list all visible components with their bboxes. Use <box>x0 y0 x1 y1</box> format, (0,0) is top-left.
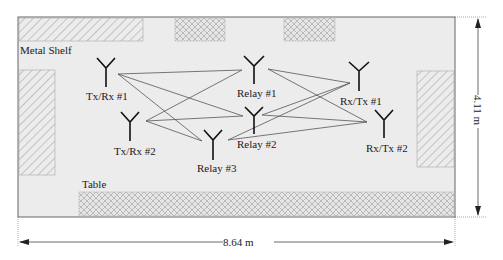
crosshatch-block-top-1 <box>175 18 225 41</box>
node-label-rxtx1: Rx/Tx #1 <box>340 95 382 107</box>
table <box>79 192 454 216</box>
node-label-rxtx2: Rx/Tx #2 <box>366 142 408 154</box>
metal-shelf-label: Metal Shelf <box>20 44 72 56</box>
node-label-txrx1: Tx/Rx #1 <box>86 90 128 102</box>
width-label: 8.64 m <box>223 236 254 248</box>
node-label-relay2: Relay #2 <box>237 138 276 150</box>
floor-plan-diagram: Metal Shelf Table Tx/Rx #1 Tx/Rx #2 Rela… <box>0 0 503 260</box>
node-label-txrx2: Tx/Rx #2 <box>114 145 156 157</box>
metal-shelf-right <box>417 71 454 167</box>
metal-shelf-top-left <box>19 18 143 41</box>
width-dimension: 8.64 m <box>18 217 455 248</box>
height-label: 4.11 m <box>472 95 484 126</box>
node-label-relay1: Relay #1 <box>237 87 276 99</box>
height-dimension: 4.11 m <box>455 17 487 217</box>
node-label-relay3: Relay #3 <box>197 162 237 174</box>
crosshatch-block-top-2 <box>284 18 335 41</box>
metal-shelf-left <box>19 70 55 175</box>
table-label: Table <box>82 178 106 190</box>
